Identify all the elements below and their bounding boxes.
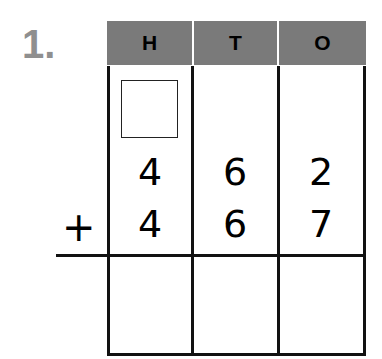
answer-tens[interactable] — [194, 257, 277, 353]
plus-sign: + — [62, 204, 96, 250]
addend1-ones: 2 — [278, 150, 364, 194]
answer-ones[interactable] — [280, 257, 363, 353]
addend1-hundreds: 4 — [107, 150, 193, 194]
addend2-tens: 6 — [192, 202, 278, 246]
header-tens: T — [194, 21, 277, 65]
bottom-border — [107, 353, 366, 356]
problem-number: 1. — [22, 22, 55, 67]
addend2-ones: 7 — [278, 202, 364, 246]
addend2-hundreds: 4 — [107, 202, 193, 246]
answer-hundreds[interactable] — [110, 257, 191, 353]
header-ones: O — [279, 21, 366, 65]
header-hundreds: H — [107, 21, 192, 65]
carry-box[interactable] — [121, 80, 178, 138]
addend1-tens: 6 — [192, 150, 278, 194]
